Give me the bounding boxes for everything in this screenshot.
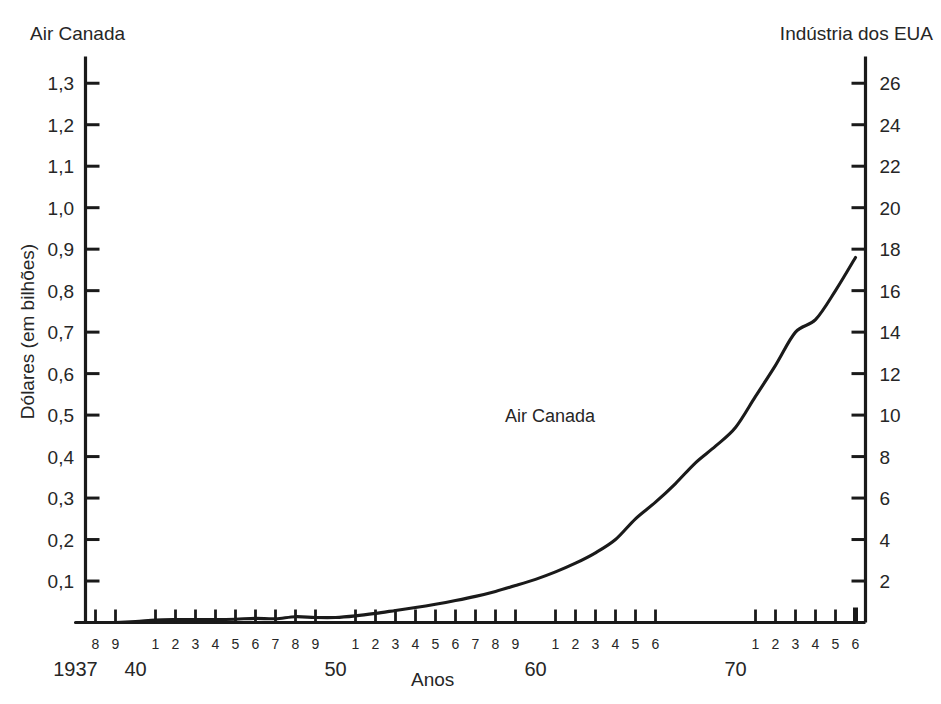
axes-group [86, 57, 866, 623]
data-curve-air-canada [76, 257, 856, 622]
plot-area [0, 0, 941, 704]
chart-figure: Air Canada Indústria dos EUA Dólares (em… [0, 0, 941, 704]
tickmarks-group [86, 83, 866, 622]
